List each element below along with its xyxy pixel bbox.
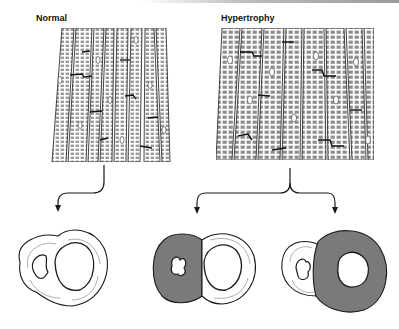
normal-heart-cross-section: [19, 230, 107, 306]
septal-hypertrophy-cross-section: [153, 234, 255, 304]
normal-fiber-panel: [50, 28, 172, 162]
connector-arrows: [58, 165, 335, 208]
concentric-hypertrophy-cross-section: [282, 231, 387, 312]
diagram-canvas: [0, 0, 399, 329]
hypertrophy-fiber-panel: [216, 28, 374, 160]
